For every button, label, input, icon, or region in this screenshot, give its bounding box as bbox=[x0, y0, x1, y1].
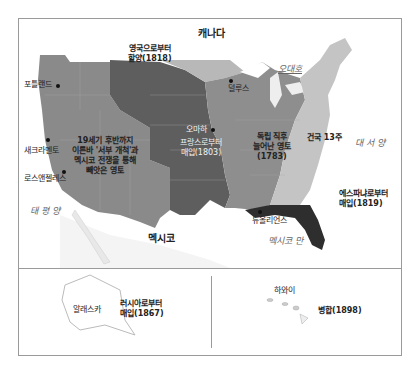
city-dot-new-orleans bbox=[258, 210, 262, 214]
label-spain-cession: 에스파냐로부터매입(1819) bbox=[339, 189, 388, 209]
city-dot-los-angeles bbox=[62, 170, 66, 174]
hawaii-islands bbox=[267, 299, 308, 325]
label-los-angeles: 로스앤젤레스 bbox=[24, 174, 66, 184]
label-hawaii: 하와이 bbox=[274, 286, 295, 296]
label-alaska-purchase: 러시아로부터매입(1867) bbox=[120, 299, 164, 319]
label-canada: 캐나다 bbox=[198, 29, 225, 39]
label-omaha: 오마하 bbox=[186, 125, 207, 135]
label-west-territory: 19세기 후반까지이른바 '서부 개척'과 멕시코 전쟁을 통해빼앗은 영토 bbox=[72, 136, 138, 176]
label-alaska: 알래스카 bbox=[73, 305, 101, 315]
label-pacific: 태 평 양 bbox=[30, 206, 60, 216]
label-portland: 포틀랜드 bbox=[24, 80, 52, 90]
city-dot-duluth bbox=[229, 79, 233, 83]
label-louisiana-purchase: 프랑스로부터매입(1803) bbox=[180, 138, 222, 158]
label-mexico: 멕시코 bbox=[148, 234, 175, 244]
label-gulf: 멕시코 만 bbox=[268, 236, 303, 246]
label-britain-cession: 영국으로부터할양(1818) bbox=[128, 44, 172, 64]
city-dot-omaha bbox=[211, 128, 215, 132]
label-hawaii-annexation: 병합(1898) bbox=[318, 306, 362, 316]
label-independence-territory: 독립 직후늘어난 영토 (1783) bbox=[253, 132, 291, 162]
label-sacramento: 새크라멘토 bbox=[24, 146, 59, 156]
label-new-orleans: 뉴올리언스 bbox=[252, 216, 287, 226]
label-duluth: 덜루스 bbox=[228, 84, 249, 94]
city-dot-sacramento bbox=[46, 138, 50, 142]
label-great-lakes: 오대호 bbox=[278, 64, 302, 74]
city-dot-portland bbox=[56, 84, 60, 88]
label-thirteen-colonies: 건국 13주 bbox=[307, 133, 342, 143]
label-atlantic: 대 서 양 bbox=[355, 138, 385, 148]
